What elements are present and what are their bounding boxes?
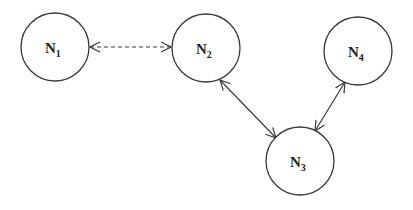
node-n1-label: N [45,40,56,56]
node-n2-label: N [196,41,207,57]
node-n3: N3 [266,127,334,195]
node-n3-label: N [290,154,301,170]
node-n2-subscript: 2 [207,49,212,60]
node-n2: N2 [172,14,240,82]
node-n4-label: N [348,44,359,60]
node-n1-subscript: 1 [56,48,61,59]
node-n3-subscript: 3 [301,162,306,173]
edge-n2-n3 [220,80,276,138]
node-n4: N4 [324,17,392,85]
node-n4-subscript: 4 [359,52,364,63]
edge-n4-n3 [315,82,345,131]
network-diagram: N1 N2 N3 N4 [0,0,413,210]
node-n1: N1 [21,13,89,81]
